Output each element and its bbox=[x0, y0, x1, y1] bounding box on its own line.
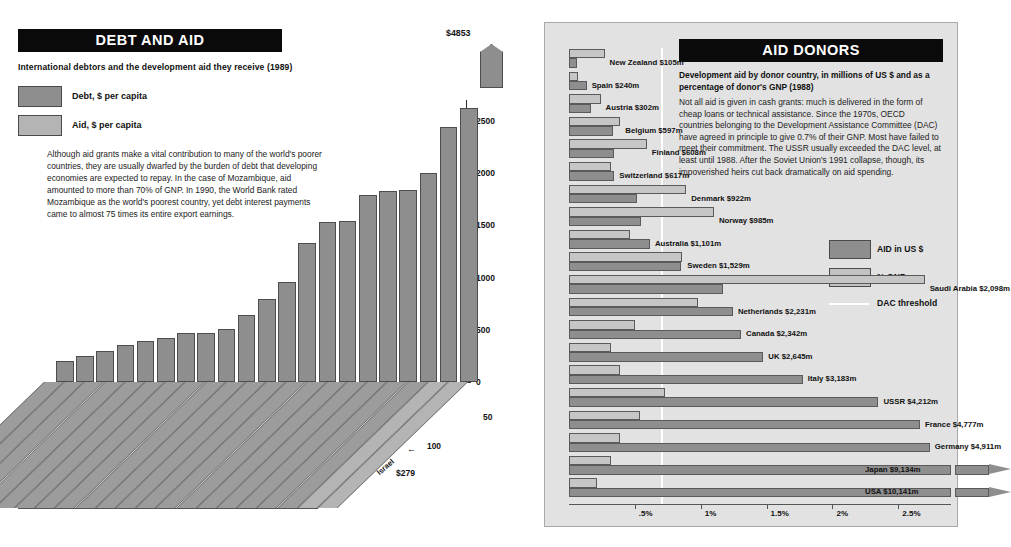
debt-bar bbox=[278, 282, 296, 382]
x-tick-label: 2.5% bbox=[902, 509, 920, 518]
y-tick-label: 1000 bbox=[476, 273, 495, 283]
donor-label: Belgium $597m bbox=[625, 126, 682, 135]
aid-us-bar bbox=[569, 443, 930, 452]
x-tick bbox=[635, 504, 636, 509]
pct-gnp-bar bbox=[569, 478, 597, 487]
aid-us-bar bbox=[569, 375, 803, 384]
debt-bar bbox=[197, 333, 215, 382]
debt-bar bbox=[359, 195, 377, 382]
debt-top-value-label: $4853 bbox=[446, 28, 470, 38]
debt-bar bbox=[258, 299, 276, 382]
x-tick-label: 2% bbox=[836, 509, 848, 518]
debt-bar bbox=[218, 329, 236, 382]
donor-label: New Zealand $105m bbox=[610, 58, 684, 67]
pct-gnp-bar bbox=[569, 456, 611, 465]
aid-us-bar bbox=[569, 58, 577, 67]
debt-bar bbox=[339, 221, 357, 382]
donor-label: USA $10,141m bbox=[865, 487, 918, 496]
debt-bar bbox=[137, 341, 155, 382]
donor-label: USSR $4,212m bbox=[883, 397, 938, 406]
x-tick bbox=[898, 504, 899, 509]
debt-bar bbox=[399, 190, 417, 382]
broken-bar-arrow-icon bbox=[989, 487, 1011, 497]
aid-axis-tick-100: 100 bbox=[427, 441, 441, 451]
legend-swatch-aid-us bbox=[829, 240, 871, 259]
broken-bar-stub bbox=[955, 488, 989, 497]
debt-bar bbox=[177, 333, 195, 382]
donor-label: Netherlands $2,231m bbox=[738, 307, 816, 316]
aid-donors-panel: AID DONORS Development aid by donor coun… bbox=[544, 22, 958, 527]
pct-gnp-bar bbox=[569, 388, 665, 397]
debt-bar bbox=[460, 108, 478, 382]
debt-bar bbox=[319, 222, 337, 382]
donor-label: Finland $608m bbox=[652, 148, 706, 157]
pct-gnp-bar bbox=[569, 117, 620, 126]
donor-label: UK $2,645m bbox=[768, 352, 812, 361]
pct-gnp-bar bbox=[569, 252, 682, 261]
debt-bar bbox=[76, 356, 94, 382]
debt-bar bbox=[56, 361, 74, 382]
aid-us-bar bbox=[569, 104, 591, 113]
donor-label: Canada $2,342m bbox=[746, 329, 807, 338]
donors-panel-subtitle: Development aid by donor country, in mil… bbox=[679, 70, 937, 93]
pct-gnp-bar bbox=[569, 49, 605, 58]
donor-label: Sweden $1,529m bbox=[687, 261, 749, 270]
donor-label: Australia $1,101m bbox=[655, 239, 721, 248]
debt-bar bbox=[96, 351, 114, 382]
aid-us-bar bbox=[569, 171, 614, 180]
pct-gnp-bar bbox=[569, 320, 635, 329]
aid-us-bar bbox=[569, 149, 614, 158]
aid-us-bar bbox=[569, 397, 878, 406]
pct-gnp-bar bbox=[569, 343, 611, 352]
broken-bar-arrow-icon bbox=[989, 464, 1011, 474]
aid-us-bar bbox=[569, 330, 741, 339]
pct-gnp-bar bbox=[569, 185, 686, 194]
donor-label: Spain $240m bbox=[592, 81, 640, 90]
donors-panel-title: AID DONORS bbox=[679, 39, 943, 62]
legend-swatch-dac-threshold bbox=[829, 303, 869, 305]
pct-gnp-bar bbox=[569, 139, 647, 148]
pct-gnp-bar bbox=[569, 275, 925, 284]
debt-bar bbox=[440, 127, 458, 382]
donor-label: Austria $302m bbox=[606, 103, 659, 112]
pct-gnp-bar bbox=[569, 207, 714, 216]
israel-broken-bar-cap bbox=[480, 44, 503, 88]
debt-bar bbox=[298, 243, 316, 382]
x-tick-label: 1% bbox=[705, 509, 717, 518]
y-tick-label: 500 bbox=[476, 325, 490, 335]
israel-aid-value-label: $279 bbox=[396, 468, 415, 478]
donor-label: Italy $3,183m bbox=[808, 374, 857, 383]
debt-bar bbox=[157, 338, 175, 382]
aid-us-bar bbox=[569, 194, 637, 203]
aid-us-bar bbox=[569, 284, 723, 293]
aid-us-bar bbox=[569, 420, 920, 429]
pct-gnp-bar bbox=[569, 298, 698, 307]
debt-bar bbox=[420, 173, 438, 382]
aid-us-bar bbox=[569, 307, 733, 316]
debt-and-aid-panel: DEBT AND AID International debtors and t… bbox=[0, 0, 534, 547]
pct-gnp-bar bbox=[569, 72, 578, 81]
pct-gnp-bar bbox=[569, 94, 601, 103]
aid-us-bar bbox=[569, 217, 641, 226]
aid-axis-arrow-icon: ← bbox=[407, 444, 416, 454]
donor-label: Saudi Arabia $2,098m bbox=[930, 284, 1010, 293]
aid-us-bar bbox=[569, 352, 763, 361]
aid-us-bar bbox=[569, 239, 650, 248]
y-tick-label: 2000 bbox=[476, 168, 495, 178]
y-tick-label: 1500 bbox=[476, 220, 495, 230]
legend-label-dac-threshold: DAC threshold bbox=[877, 298, 937, 308]
aid-us-bar bbox=[569, 262, 681, 271]
aid-axis-tick-50: 50 bbox=[483, 412, 492, 422]
aid-us-bar bbox=[569, 81, 587, 90]
x-tick-label: 1.5% bbox=[771, 509, 789, 518]
broken-bar-stub bbox=[955, 465, 989, 474]
donors-panel-body-text: Not all aid is given in cash grants: muc… bbox=[679, 97, 941, 178]
debt-bar bbox=[238, 315, 256, 382]
donor-label: Japan $9,134m bbox=[865, 465, 920, 474]
donor-label: Denmark $922m bbox=[691, 194, 751, 203]
debt-bar bbox=[117, 345, 135, 382]
debt-bar-chart: $4853 $279 50 ← 100 05001000150020002500… bbox=[0, 0, 534, 547]
pct-gnp-bar bbox=[569, 162, 611, 171]
pct-gnp-bar bbox=[569, 433, 620, 442]
donors-x-axis bbox=[569, 504, 951, 505]
